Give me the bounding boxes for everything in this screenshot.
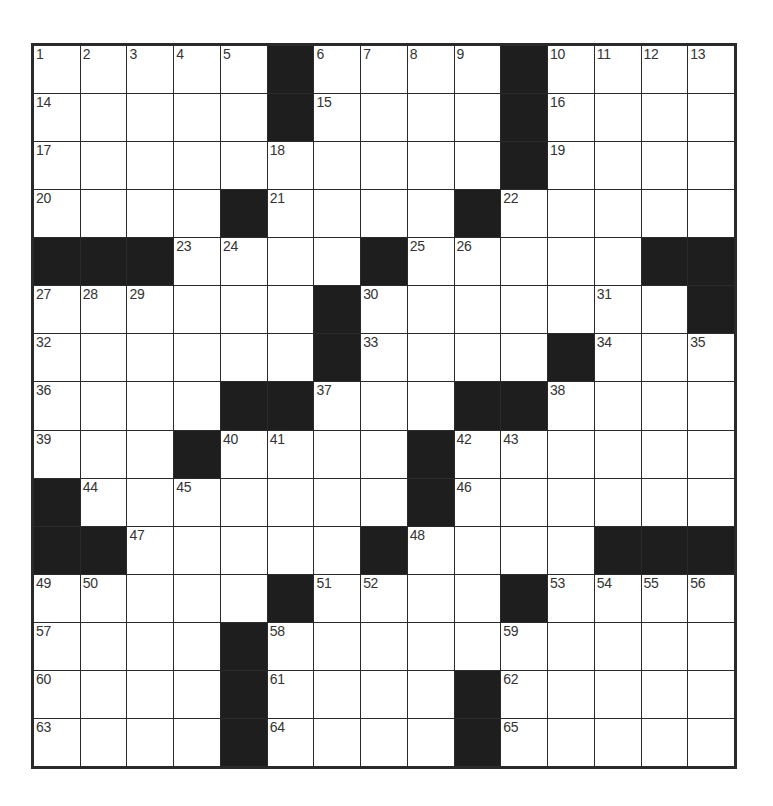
grid-cell[interactable]: 51 <box>314 575 360 622</box>
grid-cell[interactable]: 60 <box>34 671 80 718</box>
grid-cell[interactable]: 29 <box>127 286 173 333</box>
grid-cell[interactable] <box>174 142 220 189</box>
grid-cell[interactable] <box>314 238 360 285</box>
grid-cell[interactable] <box>314 623 360 670</box>
grid-cell[interactable]: 26 <box>455 238 501 285</box>
grid-cell[interactable] <box>501 527 547 574</box>
grid-cell[interactable]: 3 <box>127 46 173 93</box>
grid-cell[interactable] <box>548 286 594 333</box>
grid-cell[interactable] <box>221 527 267 574</box>
grid-cell[interactable] <box>314 431 360 478</box>
grid-cell[interactable]: 2 <box>81 46 127 93</box>
grid-cell[interactable] <box>548 527 594 574</box>
grid-cell[interactable] <box>548 671 594 718</box>
grid-cell[interactable]: 4 <box>174 46 220 93</box>
grid-cell[interactable] <box>455 286 501 333</box>
grid-cell[interactable] <box>595 94 641 141</box>
grid-cell[interactable]: 40 <box>221 431 267 478</box>
grid-cell[interactable] <box>595 238 641 285</box>
grid-cell[interactable]: 55 <box>642 575 688 622</box>
grid-cell[interactable] <box>174 719 220 766</box>
grid-cell[interactable] <box>642 334 688 381</box>
grid-cell[interactable]: 63 <box>34 719 80 766</box>
grid-cell[interactable]: 28 <box>81 286 127 333</box>
grid-cell[interactable] <box>408 190 454 237</box>
grid-cell[interactable] <box>455 142 501 189</box>
grid-cell[interactable] <box>642 94 688 141</box>
grid-cell[interactable] <box>501 334 547 381</box>
grid-cell[interactable] <box>642 671 688 718</box>
grid-cell[interactable]: 30 <box>361 286 407 333</box>
grid-cell[interactable]: 54 <box>595 575 641 622</box>
grid-cell[interactable] <box>408 575 454 622</box>
grid-cell[interactable]: 37 <box>314 382 360 429</box>
grid-cell[interactable]: 38 <box>548 382 594 429</box>
grid-cell[interactable] <box>314 479 360 526</box>
grid-cell[interactable]: 14 <box>34 94 80 141</box>
grid-cell[interactable]: 61 <box>268 671 314 718</box>
grid-cell[interactable] <box>174 623 220 670</box>
grid-cell[interactable] <box>127 190 173 237</box>
grid-cell[interactable] <box>174 334 220 381</box>
grid-cell[interactable]: 6 <box>314 46 360 93</box>
grid-cell[interactable] <box>127 94 173 141</box>
grid-cell[interactable] <box>221 479 267 526</box>
grid-cell[interactable] <box>642 142 688 189</box>
grid-cell[interactable] <box>455 334 501 381</box>
grid-cell[interactable] <box>221 575 267 622</box>
grid-cell[interactable] <box>268 286 314 333</box>
grid-cell[interactable] <box>81 334 127 381</box>
grid-cell[interactable]: 31 <box>595 286 641 333</box>
grid-cell[interactable]: 27 <box>34 286 80 333</box>
grid-cell[interactable]: 53 <box>548 575 594 622</box>
grid-cell[interactable] <box>81 94 127 141</box>
grid-cell[interactable] <box>408 94 454 141</box>
grid-cell[interactable] <box>408 382 454 429</box>
grid-cell[interactable]: 62 <box>501 671 547 718</box>
grid-cell[interactable] <box>455 623 501 670</box>
grid-cell[interactable]: 13 <box>688 46 734 93</box>
grid-cell[interactable]: 1 <box>34 46 80 93</box>
grid-cell[interactable] <box>688 382 734 429</box>
grid-cell[interactable] <box>642 190 688 237</box>
grid-cell[interactable] <box>688 623 734 670</box>
grid-cell[interactable]: 35 <box>688 334 734 381</box>
grid-cell[interactable] <box>595 623 641 670</box>
grid-cell[interactable] <box>548 431 594 478</box>
grid-cell[interactable] <box>642 382 688 429</box>
grid-cell[interactable] <box>642 623 688 670</box>
grid-cell[interactable]: 65 <box>501 719 547 766</box>
grid-cell[interactable]: 34 <box>595 334 641 381</box>
grid-cell[interactable] <box>221 334 267 381</box>
grid-cell[interactable]: 57 <box>34 623 80 670</box>
grid-cell[interactable]: 22 <box>501 190 547 237</box>
grid-cell[interactable] <box>688 431 734 478</box>
grid-cell[interactable]: 43 <box>501 431 547 478</box>
grid-cell[interactable] <box>501 238 547 285</box>
grid-cell[interactable]: 15 <box>314 94 360 141</box>
grid-cell[interactable] <box>268 527 314 574</box>
grid-cell[interactable] <box>81 142 127 189</box>
grid-cell[interactable]: 8 <box>408 46 454 93</box>
grid-cell[interactable] <box>361 142 407 189</box>
grid-cell[interactable] <box>548 238 594 285</box>
grid-cell[interactable] <box>688 142 734 189</box>
grid-cell[interactable] <box>221 94 267 141</box>
grid-cell[interactable] <box>314 142 360 189</box>
grid-cell[interactable] <box>268 238 314 285</box>
grid-cell[interactable]: 59 <box>501 623 547 670</box>
grid-cell[interactable] <box>81 382 127 429</box>
grid-cell[interactable] <box>127 479 173 526</box>
grid-cell[interactable] <box>361 719 407 766</box>
grid-cell[interactable] <box>642 431 688 478</box>
grid-cell[interactable]: 16 <box>548 94 594 141</box>
grid-cell[interactable] <box>81 671 127 718</box>
grid-cell[interactable]: 24 <box>221 238 267 285</box>
grid-cell[interactable]: 49 <box>34 575 80 622</box>
grid-cell[interactable] <box>127 382 173 429</box>
grid-cell[interactable] <box>548 623 594 670</box>
grid-cell[interactable] <box>127 623 173 670</box>
grid-cell[interactable]: 5 <box>221 46 267 93</box>
grid-cell[interactable] <box>455 94 501 141</box>
grid-cell[interactable] <box>408 671 454 718</box>
